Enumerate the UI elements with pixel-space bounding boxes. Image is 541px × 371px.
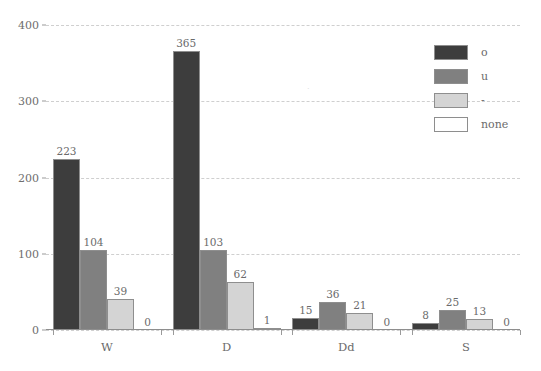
- x-category-label-dd: Dd: [338, 340, 355, 354]
- x-tick-mark: [412, 330, 413, 335]
- legend-swatch: [434, 69, 468, 84]
- bar-dd-u[interactable]: [319, 302, 346, 330]
- bar-value-label: 15: [299, 304, 312, 316]
- legend-label: none: [481, 118, 508, 131]
- bar-value-label: 1: [264, 314, 271, 326]
- stray-mark: .: [307, 85, 310, 89]
- bar-w-u[interactable]: [80, 250, 107, 330]
- x-category-label-s: S: [462, 340, 470, 354]
- bar-group-dd: 1536210Dd: [292, 25, 400, 330]
- y-tick-label: 100: [18, 247, 39, 260]
- x-tick-mark: [292, 330, 293, 335]
- legend-label: o: [481, 46, 488, 59]
- bar-d-dash[interactable]: [227, 282, 254, 330]
- bar-chart-figure: 0100200300400 223104390W365103621D153621…: [0, 0, 541, 371]
- bar-value-label: 104: [83, 236, 103, 248]
- bar-w-o[interactable]: [53, 159, 80, 330]
- bar-s-dash[interactable]: [466, 319, 493, 330]
- bar-dd-o[interactable]: [292, 318, 319, 330]
- bar-value-label: 36: [326, 288, 339, 300]
- bar-dd-dash[interactable]: [346, 313, 373, 330]
- bar-s-o[interactable]: [412, 323, 439, 330]
- legend-item-o[interactable]: o: [434, 40, 534, 64]
- bar-value-label: 103: [203, 236, 223, 248]
- bar-group-w: 223104390W: [53, 25, 161, 330]
- bar-d-none[interactable]: [254, 328, 281, 330]
- legend-item-none[interactable]: none: [434, 112, 534, 136]
- y-tick-label: 0: [32, 324, 39, 337]
- bar-value-label: 0: [144, 316, 151, 328]
- bar-value-label: 21: [353, 299, 366, 311]
- x-tick-mark: [400, 330, 401, 335]
- bar-value-label: 25: [446, 296, 459, 308]
- bar-value-label: 8: [422, 309, 429, 321]
- legend-item-u[interactable]: u: [434, 64, 534, 88]
- x-tick-mark: [161, 330, 162, 335]
- x-category-label-d: D: [222, 340, 231, 354]
- legend-item-dash[interactable]: -: [434, 88, 534, 112]
- legend-label: u: [481, 70, 488, 83]
- bar-value-label: 13: [473, 305, 486, 317]
- y-tick-label: 200: [18, 171, 39, 184]
- x-tick-mark: [173, 330, 174, 335]
- legend-swatch: [434, 45, 468, 60]
- bar-d-u[interactable]: [200, 250, 227, 330]
- x-tick-mark: [281, 330, 282, 335]
- legend-swatch: [434, 93, 468, 108]
- x-tick-mark: [53, 330, 54, 335]
- chart-legend: ou-none: [434, 40, 534, 136]
- bar-s-u[interactable]: [439, 310, 466, 330]
- bar-value-label: 0: [503, 316, 510, 328]
- y-tick-label: 300: [18, 95, 39, 108]
- bar-d-o[interactable]: [173, 51, 200, 330]
- y-tick-label: 400: [18, 19, 39, 32]
- bar-value-label: 39: [114, 285, 127, 297]
- legend-swatch: [434, 117, 468, 132]
- x-category-label-w: W: [101, 340, 113, 354]
- x-tick-mark: [520, 330, 521, 335]
- legend-label: -: [481, 94, 485, 107]
- gridline-0: [46, 330, 520, 331]
- bar-value-label: 365: [176, 37, 196, 49]
- bar-value-label: 0: [383, 316, 390, 328]
- bar-group-d: 365103621D: [173, 25, 281, 330]
- bar-w-dash[interactable]: [107, 299, 134, 330]
- bar-value-label: 223: [56, 145, 76, 157]
- bar-value-label: 62: [233, 268, 246, 280]
